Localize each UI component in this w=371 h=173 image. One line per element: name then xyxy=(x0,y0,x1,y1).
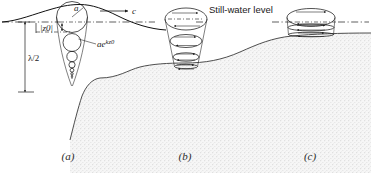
seabed xyxy=(70,33,371,173)
still-water-level-label: Still-water level xyxy=(209,4,273,15)
orbit-circle-3 xyxy=(67,51,77,61)
orbit-circle-2 xyxy=(63,34,81,52)
orbit-circle-5 xyxy=(70,68,74,72)
celerity-label: c xyxy=(132,6,136,16)
panel-b-transitional xyxy=(165,8,207,69)
panel-c-shallow-water xyxy=(287,9,338,37)
orbit-circle-6 xyxy=(71,73,73,75)
orbit-circle-7 xyxy=(71,75,73,77)
caption-a: (a) xyxy=(62,150,75,163)
caption-b: (b) xyxy=(179,150,192,163)
wave-orbit-figure: Still-water level c a aekz0 xyxy=(0,0,371,173)
amplitude-label: a xyxy=(74,3,79,13)
orbit-circle-8 xyxy=(72,77,73,78)
caption-c: (c) xyxy=(304,150,317,163)
orbit-circle-4 xyxy=(69,62,75,68)
z0-label: |z0| xyxy=(40,23,53,33)
half-wavelength-label: λ/2 xyxy=(28,53,39,63)
decay-amplitude-label: aekz0 xyxy=(97,38,115,50)
